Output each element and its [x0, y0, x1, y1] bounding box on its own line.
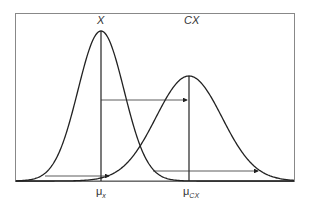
mean-label-x: μx	[96, 185, 106, 199]
curve-label-x: X	[97, 14, 104, 26]
distribution-curve-cx	[16, 76, 294, 181]
distribution-curve-x	[16, 31, 294, 181]
mean-label-cx: μCX	[183, 185, 199, 199]
curve-label-cx: CX	[184, 14, 199, 26]
diagram-canvas	[0, 0, 311, 205]
